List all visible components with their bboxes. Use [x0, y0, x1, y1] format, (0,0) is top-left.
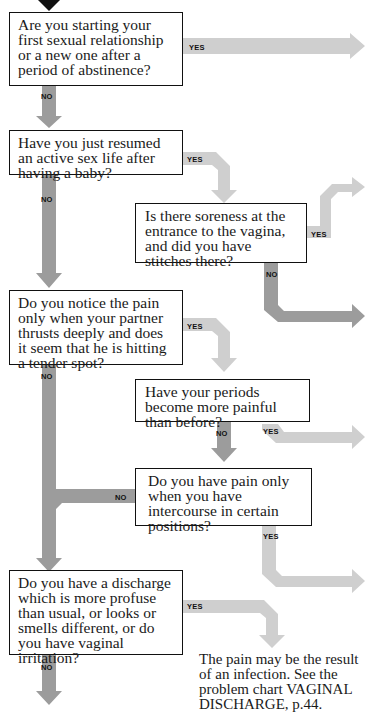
conclusion-text: The pain may be the result of an infecti…: [199, 652, 367, 712]
question-box-q6: Do you have pain only when you have inte…: [135, 468, 312, 526]
q4-no-label: NO: [41, 372, 53, 381]
q1-no-label: NO: [41, 92, 53, 101]
question-box-q1: Are you starting your first sexual relat…: [9, 12, 183, 86]
question-box-q5: Have your periods become more painful th…: [135, 379, 310, 422]
q2-yes-label: YES: [187, 155, 203, 164]
q5-no-label: NO: [216, 429, 228, 438]
q7-yes-label: YES: [187, 602, 203, 611]
q1-yes-label: YES: [189, 43, 205, 52]
q2-no-arrow-icon: [36, 175, 62, 288]
q3-yes-arrow-icon: [307, 177, 365, 238]
q3-yes-label: YES: [311, 230, 327, 239]
q7-no-label: NO: [41, 663, 53, 672]
question-box-q4: Do you notice the pain only when your pa…: [9, 290, 183, 365]
q3-no-label: NO: [266, 270, 278, 279]
q1-yes-arrow-icon: [183, 33, 365, 59]
question-box-q3: Is there soreness at the entrance to the…: [135, 203, 307, 263]
q4-no-arrow-icon: [42, 365, 56, 510]
q2-no-label: NO: [41, 195, 53, 204]
question-box-q7: Do you have a discharge which is more pr…: [9, 570, 183, 655]
q5-yes-label: YES: [263, 427, 279, 436]
q6-no-label: NO: [115, 493, 127, 502]
q6-yes-label: YES: [263, 532, 279, 541]
entry-arrow-icon: [38, 0, 60, 11]
flowchart: Are you starting your first sexual relat…: [0, 0, 369, 715]
q4-yes-label: YES: [187, 322, 203, 331]
q3-no-arrow-icon: [264, 263, 365, 328]
question-box-q2: Have you just resumed an active sex life…: [9, 130, 183, 175]
